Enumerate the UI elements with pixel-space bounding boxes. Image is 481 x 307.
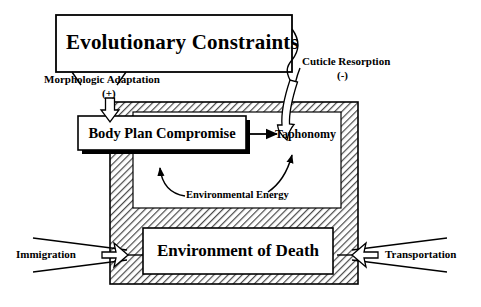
immigration-label: Immigration xyxy=(16,249,76,260)
cuticle-resorption-label: Cuticle Resorption xyxy=(302,56,390,67)
diagram-canvas: Taphonomy (solid arrow) ========= --> xyxy=(0,0,481,307)
transportation-label: Transportation xyxy=(385,249,456,260)
morphologic-adaptation-sign: (+) xyxy=(102,88,116,99)
evolutionary-constraints-label: Evolutionary Constraints xyxy=(66,32,282,53)
environmental-energy-label: Environmental Energy xyxy=(186,190,289,201)
cuticle-resorption-sign: (-) xyxy=(337,70,348,81)
body-plan-compromise-label: Body Plan Compromise xyxy=(78,126,246,141)
taphonomy-label: Taphonomy xyxy=(275,128,336,140)
environment-of-death-label: Environment of Death xyxy=(143,242,333,259)
morphologic-adaptation-label: Morphologic Adaptation xyxy=(44,74,160,85)
